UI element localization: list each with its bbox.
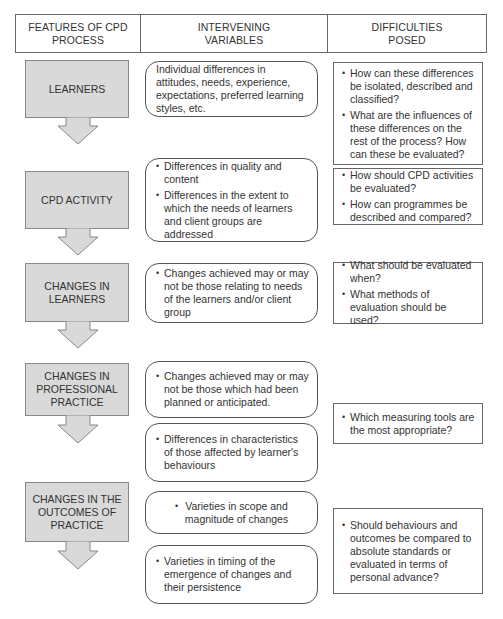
list-item: •What methods of evaluation should be us… xyxy=(342,288,476,327)
feature-changes-in-professional-practice: CHANGES IN PROFESSIONAL PRACTICE xyxy=(25,363,129,416)
list-item: •How can these differences be isolated, … xyxy=(342,67,476,106)
variable-affected-characteristics: •Differences in characteristics of those… xyxy=(145,423,318,482)
variable-cpd-activity: •Differences in quality and content •Dif… xyxy=(145,158,318,242)
header-difficulties: DIFFICULTIES POSED xyxy=(327,15,486,52)
list-item: •Which measuring tools are the most appr… xyxy=(342,411,476,437)
down-arrow-icon xyxy=(56,117,100,145)
feature-changes-in-learners: CHANGES IN LEARNERS xyxy=(25,263,129,322)
list-item: •Changes achieved may or may not be thos… xyxy=(156,370,309,409)
variable-text: Individual differences in attitudes, nee… xyxy=(156,63,309,115)
column-header-row: FEATURES OF CPD PROCESS INTERVENING VARI… xyxy=(15,14,487,53)
list-item: •Varieties in scope and magnitude of cha… xyxy=(173,500,293,526)
list-item: •How can programmes be described and com… xyxy=(342,198,476,224)
list-item: •Changes achieved may or may not be thos… xyxy=(156,267,309,319)
list-item: •Should behaviours and outcomes be compa… xyxy=(342,519,476,584)
list-item: •What should be evaluated when? xyxy=(342,259,476,285)
list-item: •Varieties in timing of the emergence of… xyxy=(156,555,309,594)
difficulty-changes-in-learners: •What should be evaluated when? •What me… xyxy=(333,262,483,324)
feature-changes-in-outcomes: CHANGES IN THE OUTCOMES OF PRACTICE xyxy=(25,482,129,542)
variable-learner-differences: Individual differences in attitudes, nee… xyxy=(145,61,318,117)
down-arrow-icon xyxy=(56,228,100,256)
list-item: •How should CPD activities be evaluated? xyxy=(342,169,476,195)
list-item: •What are the influences of these differ… xyxy=(342,109,476,161)
difficulty-professional-practice: •Which measuring tools are the most appr… xyxy=(333,403,483,444)
variable-scope-magnitude: •Varieties in scope and magnitude of cha… xyxy=(145,491,318,534)
down-arrow-icon xyxy=(56,415,100,444)
difficulty-learners: •How can these differences be isolated, … xyxy=(333,62,483,165)
feature-cpd-activity: CPD ACTIVITY xyxy=(25,171,129,229)
list-item: •Differences in the extent to which the … xyxy=(156,189,309,241)
header-features: FEATURES OF CPD PROCESS xyxy=(16,15,140,52)
difficulty-cpd-activity: •How should CPD activities be evaluated?… xyxy=(333,168,483,225)
variable-planned-changes: •Changes achieved may or may not be thos… xyxy=(145,361,318,418)
header-intervening-variables: INTERVENING VARIABLES xyxy=(140,15,327,52)
down-arrow-icon xyxy=(56,321,100,349)
variable-changes-in-learners: •Changes achieved may or may not be thos… xyxy=(145,263,318,323)
list-item: •Differences in quality and content xyxy=(156,160,309,186)
down-arrow-icon xyxy=(56,541,100,570)
difficulty-outcomes-of-practice: •Should behaviours and outcomes be compa… xyxy=(333,508,483,594)
variable-timing-persistence: •Varieties in timing of the emergence of… xyxy=(145,545,318,604)
feature-learners: LEARNERS xyxy=(25,60,129,118)
list-item: •Differences in characteristics of those… xyxy=(156,433,309,472)
